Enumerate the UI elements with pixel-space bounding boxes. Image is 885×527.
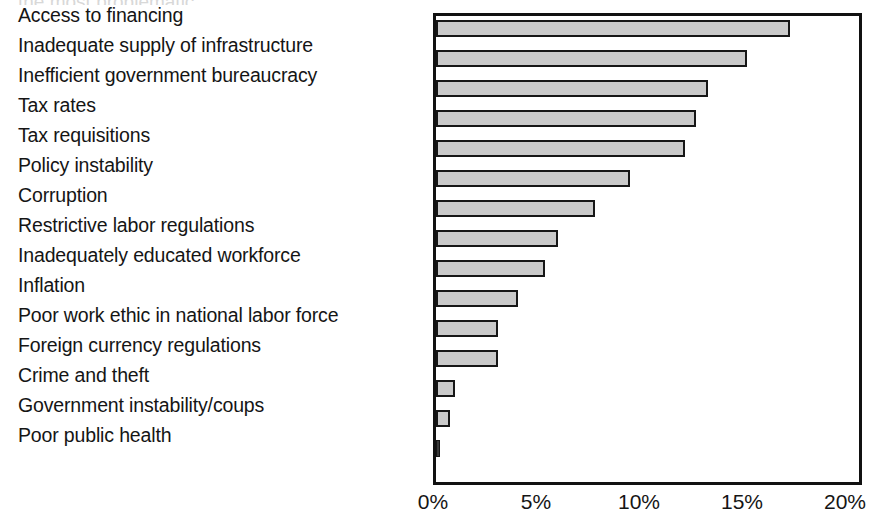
bar [436, 20, 790, 37]
bar [436, 380, 455, 397]
category-label: Inflation [18, 270, 85, 300]
x-tick-label: 10% [618, 487, 660, 517]
bar [436, 260, 545, 277]
bar-series [436, 16, 859, 482]
bar [436, 230, 558, 247]
category-label: Poor work ethic in national labor force [18, 300, 338, 330]
category-label: Restrictive labor regulations [18, 210, 254, 240]
category-label: Tax requisitions [18, 120, 150, 150]
category-label: Poor public health [18, 420, 171, 450]
bar [436, 440, 440, 457]
category-label: Inefficient government bureaucracy [18, 60, 317, 90]
category-label: Inadequate supply of infrastructure [18, 30, 313, 60]
bar [436, 110, 696, 127]
bar [436, 350, 498, 367]
bar [436, 320, 498, 337]
bar [436, 80, 708, 97]
category-label: Foreign currency regulations [18, 330, 261, 360]
bar [436, 200, 595, 217]
bar-chart: the most problematic Access to financing… [0, 0, 885, 527]
x-tick-label: 0% [418, 487, 448, 517]
x-tick-label: 15% [721, 487, 763, 517]
category-label: Access to financing [18, 0, 183, 30]
bar [436, 50, 747, 67]
bar [436, 410, 450, 427]
bar [436, 140, 685, 157]
category-label: Corruption [18, 180, 108, 210]
x-tick-label: 20% [824, 487, 866, 517]
bar [436, 170, 630, 187]
x-tick-label: 5% [521, 487, 551, 517]
category-label: Government instability/coups [18, 390, 264, 420]
category-label-column: Access to financingInadequate supply of … [0, 0, 430, 500]
bar [436, 290, 518, 307]
plot-area [433, 13, 862, 485]
x-axis-tick-labels: 0%5%10%15%20% [433, 487, 862, 521]
category-label: Policy instability [18, 150, 153, 180]
category-label: Crime and theft [18, 360, 149, 390]
category-label: Inadequately educated workforce [18, 240, 301, 270]
category-label: Tax rates [18, 90, 96, 120]
